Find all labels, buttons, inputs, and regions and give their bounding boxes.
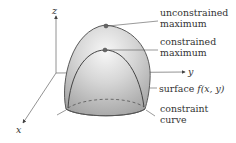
x-axis xyxy=(23,73,56,123)
label-surface-prefix: surface xyxy=(159,83,197,94)
label-constraint-2: curve xyxy=(160,114,187,125)
label-unconstrained: unconstrained xyxy=(160,7,228,18)
leader-unconstrained xyxy=(108,21,158,26)
leader-constraint-curve xyxy=(146,110,155,116)
label-unconstrained-2: maximum xyxy=(160,18,207,29)
x-axis-label: x xyxy=(16,124,22,135)
surface xyxy=(65,24,151,116)
annotations: unconstrained maximum constrained maximu… xyxy=(159,7,228,125)
constrained-max-point xyxy=(103,48,107,52)
label-surface-func: f(x, y) xyxy=(196,83,225,94)
y-axis-label: y xyxy=(187,66,194,77)
label-constrained-2: maximum xyxy=(160,47,207,58)
lagrange-constraint-diagram: z y x unconstrained maximum constrained … xyxy=(0,0,236,143)
label-surface: surface f(x, y) xyxy=(159,83,225,94)
label-constraint: constraint xyxy=(160,103,209,114)
z-axis-label: z xyxy=(51,5,58,16)
leader-left-base xyxy=(57,110,66,115)
unconstrained-max-point xyxy=(104,24,108,28)
label-constrained: constrained xyxy=(160,36,216,47)
